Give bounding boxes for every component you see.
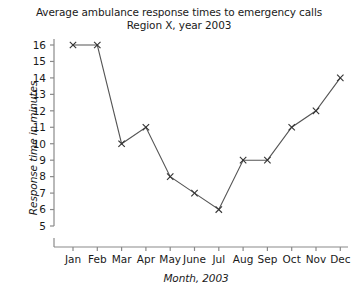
y-tick-label: 16 <box>33 39 47 51</box>
x-tick-label: Sep <box>258 253 278 265</box>
x-tick-label: June <box>182 253 206 265</box>
x-tick-label: Jan <box>64 253 81 265</box>
y-tick-label: 7 <box>39 187 46 199</box>
plot-area: 5678910111213141516 JanFebMarAprMayJuneJ… <box>0 0 358 297</box>
chart-container: Average ambulance response times to emer… <box>0 0 358 297</box>
data-point-marker <box>191 190 197 196</box>
data-series <box>70 42 344 213</box>
data-point-marker <box>167 173 173 179</box>
data-point-marker <box>216 206 222 212</box>
y-tick-label: 11 <box>33 121 46 133</box>
y-tick-label: 5 <box>39 220 46 232</box>
y-tick-label: 15 <box>33 55 46 67</box>
y-tick-label: 9 <box>39 154 46 166</box>
data-point-marker <box>289 124 295 130</box>
x-tick-label: Mar <box>112 253 132 265</box>
x-tick-label: Dec <box>330 253 351 265</box>
y-tick-label: 10 <box>33 138 46 150</box>
x-tick-label: Aug <box>233 253 254 265</box>
y-tick-label: 6 <box>39 203 46 215</box>
x-tick-label: May <box>159 253 181 265</box>
data-point-marker <box>313 108 319 114</box>
x-axis: JanFebMarAprMayJuneJulAugSepOctNovDec <box>54 247 351 265</box>
x-tick-label: Oct <box>283 253 301 265</box>
x-tick-label: Apr <box>137 253 156 265</box>
y-tick-label: 13 <box>33 88 46 100</box>
data-point-marker <box>337 75 343 81</box>
y-tick-label: 14 <box>33 72 47 84</box>
data-point-marker <box>143 124 149 130</box>
y-tick-label: 12 <box>33 105 46 117</box>
x-tick-label: Feb <box>88 253 107 265</box>
y-tick-label: 8 <box>39 170 46 182</box>
x-tick-label: Jul <box>211 253 225 265</box>
x-tick-label: Nov <box>306 253 327 265</box>
y-axis: 5678910111213141516 <box>33 39 54 247</box>
